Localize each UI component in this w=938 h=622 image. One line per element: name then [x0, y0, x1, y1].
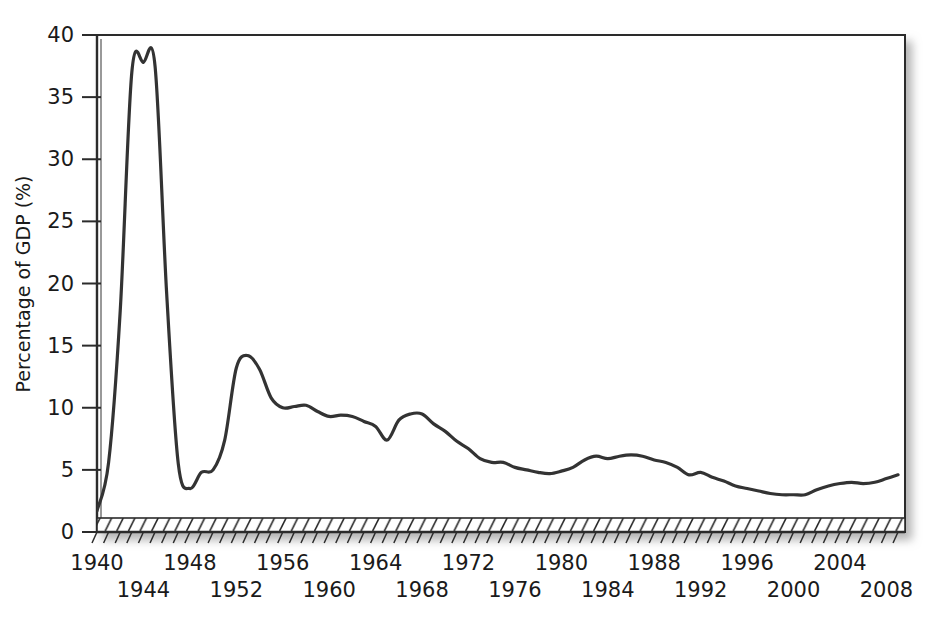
x-tick-mark: [823, 532, 828, 543]
x-tick-mark: [684, 532, 689, 543]
x-tick-mark: [742, 532, 747, 543]
x-tick-label: 1984: [581, 578, 634, 602]
x-tick-mark: [162, 532, 167, 543]
x-tick-mark: [672, 532, 677, 543]
x-tick-mark: [614, 532, 619, 543]
x-tick-mark: [545, 532, 550, 543]
x-tick-mark: [417, 532, 422, 543]
x-tick-mark: [185, 532, 190, 543]
x-tick-mark: [522, 532, 527, 543]
y-tick-label: 5: [61, 458, 74, 482]
x-tick-mark: [580, 532, 585, 543]
x-tick-mark: [731, 532, 736, 543]
x-tick-mark: [208, 532, 213, 543]
x-axis-tick-labels-row2: 194419521960196819761984199220002008: [117, 578, 913, 602]
x-tick-mark: [556, 532, 561, 543]
x-tick-mark: [104, 532, 109, 543]
x-tick-mark: [220, 532, 225, 543]
x-tick-mark: [289, 532, 294, 543]
y-tick-label: 30: [47, 147, 74, 171]
y-tick-label: 15: [47, 334, 74, 358]
x-tick-mark: [812, 532, 817, 543]
x-tick-mark: [127, 532, 132, 543]
x-tick-mark: [568, 532, 573, 543]
x-tick-mark: [359, 532, 364, 543]
x-tick-label: 1980: [535, 551, 588, 575]
x-tick-mark: [266, 532, 271, 543]
x-tick-mark: [301, 532, 306, 543]
x-tick-label: 1992: [674, 578, 727, 602]
x-tick-mark: [243, 532, 248, 543]
chart-figure: 0510152025303540 Percentage of GDP (%) 1…: [0, 0, 938, 622]
x-tick-label: 1972: [442, 551, 495, 575]
x-tick-label: 1996: [720, 551, 773, 575]
x-tick-mark: [278, 532, 283, 543]
x-tick-mark: [313, 532, 318, 543]
x-tick-mark: [336, 532, 341, 543]
y-axis-title: Percentage of GDP (%): [12, 175, 34, 392]
x-tick-mark: [394, 532, 399, 543]
x-tick-label: 2008: [860, 578, 913, 602]
x-tick-mark: [510, 532, 515, 543]
x-tick-mark: [626, 532, 631, 543]
x-tick-label: 1960: [302, 578, 355, 602]
x-tick-mark: [475, 532, 480, 543]
y-tick-label: 10: [47, 396, 74, 420]
x-tick-mark: [719, 532, 724, 543]
x-tick-mark: [347, 532, 352, 543]
x-tick-mark: [429, 532, 434, 543]
x-tick-mark: [371, 532, 376, 543]
x-tick-label: 1988: [628, 551, 681, 575]
y-axis-tick-labels: 0510152025303540: [47, 23, 74, 544]
x-tick-label: 1948: [163, 551, 216, 575]
x-tick-mark: [173, 532, 178, 543]
x-tick-label: 1976: [488, 578, 541, 602]
x-tick-mark: [777, 532, 782, 543]
y-tick-label: 20: [47, 272, 74, 296]
x-tick-mark: [881, 532, 886, 543]
x-tick-mark: [847, 532, 852, 543]
x-tick-mark: [603, 532, 608, 543]
x-tick-mark: [696, 532, 701, 543]
x-tick-label: 1964: [349, 551, 402, 575]
y-tick-label: 40: [47, 23, 74, 47]
x-tick-mark: [405, 532, 410, 543]
x-tick-mark: [324, 532, 329, 543]
y-tick-label: 0: [61, 520, 74, 544]
x-tick-mark: [382, 532, 387, 543]
x-tick-mark: [789, 532, 794, 543]
x-tick-mark: [498, 532, 503, 543]
x-axis-tick-labels-row1: 194019481956196419721980198819962004: [70, 551, 866, 575]
x-tick-mark: [707, 532, 712, 543]
x-tick-label: 2000: [767, 578, 820, 602]
x-tick-label: 1940: [70, 551, 123, 575]
x-tick-mark: [196, 532, 201, 543]
x-tick-mark: [452, 532, 457, 543]
x-tick-mark: [893, 532, 898, 543]
x-tick-mark: [661, 532, 666, 543]
x-tick-mark: [591, 532, 596, 543]
x-tick-mark: [870, 532, 875, 543]
x-tick-mark: [463, 532, 468, 543]
x-tick-mark: [487, 532, 492, 543]
x-tick-mark: [92, 532, 97, 543]
x-tick-mark: [858, 532, 863, 543]
x-tick-mark: [150, 532, 155, 543]
x-tick-mark: [115, 532, 120, 543]
x-tick-label: 1956: [256, 551, 309, 575]
x-tick-mark: [800, 532, 805, 543]
x-tick-mark: [765, 532, 770, 543]
x-axis-hatched-base: [92, 518, 905, 543]
x-tick-mark: [440, 532, 445, 543]
x-tick-mark: [638, 532, 643, 543]
x-tick-label: 1968: [395, 578, 448, 602]
x-tick-mark: [754, 532, 759, 543]
x-tick-label: 1944: [117, 578, 170, 602]
x-tick-label: 2004: [813, 551, 866, 575]
line-chart: 0510152025303540 Percentage of GDP (%) 1…: [0, 0, 938, 622]
x-tick-mark: [231, 532, 236, 543]
x-tick-label: 1952: [210, 578, 263, 602]
x-tick-mark: [649, 532, 654, 543]
x-tick-mark: [533, 532, 538, 543]
x-tick-mark: [138, 532, 143, 543]
